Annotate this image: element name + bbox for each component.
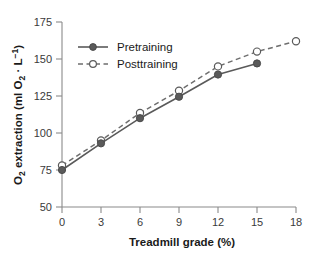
legend-marker-open-circle-icon <box>90 61 97 68</box>
y-title-sup: −1 <box>10 49 20 59</box>
y-tick-label-75: 75 <box>40 164 52 176</box>
data-point-pretraining-12 <box>214 71 221 78</box>
data-point-posttraining-18 <box>292 38 299 45</box>
data-point-pretraining-3 <box>97 140 104 147</box>
legend-label-posttraining: Posttraining <box>117 58 178 70</box>
x-tick-label-3: 3 <box>98 216 104 228</box>
data-point-pretraining-9 <box>175 93 182 100</box>
data-point-posttraining-12 <box>214 63 221 70</box>
x-tick-label-12: 12 <box>212 216 224 228</box>
x-tick-label-0: 0 <box>59 216 65 228</box>
y-tick-label-175: 175 <box>34 16 52 28</box>
y-title-lead: O <box>12 176 24 185</box>
legend-label-pretraining: Pretraining <box>117 41 173 53</box>
x-tick-label-9: 9 <box>176 216 182 228</box>
o2-extraction-line-chart: 175 150 125 100 75 50 O2 extraction (ml … <box>0 0 315 265</box>
y-tick-label-50: 50 <box>40 201 52 213</box>
y-tick-label-150: 150 <box>34 53 52 65</box>
x-tick-label-6: 6 <box>137 216 143 228</box>
x-tick-label-15: 15 <box>251 216 263 228</box>
data-point-pretraining-15 <box>253 60 260 67</box>
data-point-pretraining-0 <box>58 166 65 173</box>
data-point-pretraining-6 <box>136 115 143 122</box>
chart-figure: 175 150 125 100 75 50 O2 extraction (ml … <box>0 0 315 265</box>
y-title-close: ) <box>12 45 24 49</box>
y-title-mid: extraction (ml O <box>12 80 24 171</box>
data-point-posttraining-15 <box>253 48 260 55</box>
y-tick-label-125: 125 <box>34 90 52 102</box>
x-tick-label-18: 18 <box>290 216 302 228</box>
legend-marker-filled-circle-icon <box>90 44 97 51</box>
y-title-dot: · L <box>12 59 24 76</box>
figure-caption-partial <box>0 259 315 265</box>
y-tick-label-100: 100 <box>34 127 52 139</box>
x-axis-title: Treadmill grade (%) <box>129 236 235 248</box>
